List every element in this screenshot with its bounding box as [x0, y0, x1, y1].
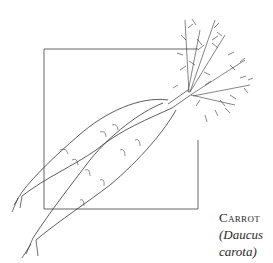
scientific-name-line2: carota): [219, 243, 263, 260]
scientific-name-line1: (Daucus: [219, 226, 263, 243]
illustration-panel: Carrot (Daucus carota): [0, 0, 273, 263]
common-name: Carrot: [219, 209, 263, 226]
caption: Carrot (Daucus carota): [219, 209, 263, 260]
